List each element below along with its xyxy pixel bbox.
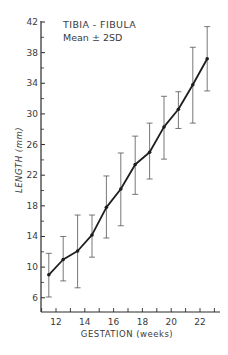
x-tick-label: 18 — [137, 317, 149, 327]
y-tick-label: 30 — [27, 109, 39, 119]
error-bars — [46, 27, 210, 297]
data-point-marker — [177, 108, 181, 112]
chart-subtitle: Mean ± 2SD — [63, 32, 122, 43]
x-axis-label: GESTATION (weeks) — [81, 329, 173, 339]
y-tick-label: 10 — [27, 262, 39, 272]
x-tick-label: 12 — [50, 317, 61, 327]
y-tick-label: 34 — [27, 78, 39, 88]
mean-line — [49, 59, 207, 275]
data-point-marker — [133, 163, 137, 167]
chart-canvas: 6101418222630343842121416182022 TIBIA - … — [0, 0, 228, 355]
data-point-marker — [119, 187, 123, 191]
data-point-marker — [162, 125, 166, 129]
y-tick-label: 6 — [32, 293, 38, 303]
data-point-marker — [191, 83, 195, 87]
axes: 6101418222630343842121416182022 — [27, 17, 220, 327]
y-tick-label: 42 — [27, 17, 38, 27]
data-point-marker — [47, 273, 51, 277]
x-tick-label: 14 — [79, 317, 91, 327]
data-point-marker — [61, 258, 65, 262]
mean-line-series — [47, 57, 209, 277]
y-tick-label: 38 — [27, 48, 39, 58]
y-tick-label: 14 — [27, 231, 39, 241]
y-tick-label: 18 — [27, 201, 39, 211]
chart-title: TIBIA - FIBULA — [62, 19, 136, 30]
y-tick-label: 22 — [27, 170, 38, 180]
y-tick-label: 26 — [27, 140, 39, 150]
x-tick-label: 16 — [108, 317, 120, 327]
x-tick-label: 22 — [194, 317, 205, 327]
data-point-marker — [90, 233, 94, 237]
x-tick-label: 20 — [165, 317, 177, 327]
y-axis-label: LENGTH (mm) — [14, 127, 24, 193]
data-point-marker — [205, 57, 209, 61]
data-point-marker — [76, 249, 80, 253]
data-point-marker — [148, 150, 152, 154]
data-point-marker — [105, 206, 109, 210]
